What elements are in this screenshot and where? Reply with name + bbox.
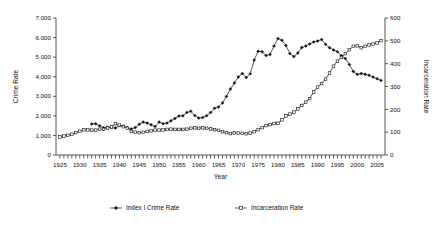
data-point-crime-rate [316, 40, 319, 43]
data-point-incarceration-rate [197, 127, 200, 130]
data-point-incarceration-rate [78, 130, 81, 133]
data-point-crime-rate [368, 74, 371, 77]
x-axis-tick-label: 1965 [212, 161, 226, 168]
data-point-crime-rate [169, 119, 172, 122]
y-axis-left-tick-label: 7,000 [36, 14, 52, 21]
data-point-incarceration-rate [344, 52, 347, 55]
y-axis-left-title: Crime Rate [12, 69, 19, 103]
series-line-2 [60, 41, 381, 137]
y-axis-right-tick-label: 400 [390, 60, 401, 67]
x-axis-tick-label: 1955 [172, 161, 186, 168]
data-point-incarceration-rate [178, 128, 181, 131]
data-point-incarceration-rate [142, 131, 145, 134]
x-axis-tick-label: 1990 [311, 161, 325, 168]
data-point-incarceration-rate [110, 126, 113, 129]
data-point-incarceration-rate [59, 136, 62, 139]
data-point-incarceration-rate [86, 129, 89, 132]
data-point-incarceration-rate [308, 97, 311, 100]
x-axis-tick-label: 1945 [132, 161, 146, 168]
data-point-incarceration-rate [146, 130, 149, 133]
data-point-incarceration-rate [380, 39, 383, 42]
data-point-incarceration-rate [285, 115, 288, 118]
data-point-crime-rate [98, 124, 101, 127]
y-axis-right-tick-label: 600 [390, 14, 401, 21]
data-point-incarceration-rate [324, 78, 327, 81]
data-point-incarceration-rate [328, 72, 331, 75]
data-point-incarceration-rate [209, 128, 212, 131]
x-axis-tick-label: 2000 [350, 161, 364, 168]
data-point-crime-rate [273, 44, 276, 47]
data-point-crime-rate [376, 77, 379, 80]
y-axis-right-tick-label: 300 [390, 83, 401, 90]
x-axis-tick-label: 1950 [152, 161, 166, 168]
data-point-crime-rate [201, 116, 204, 119]
data-point-crime-rate [312, 40, 315, 43]
data-point-crime-rate [94, 122, 97, 125]
y-axis-right-tick-label: 100 [390, 128, 401, 135]
data-point-incarceration-rate [182, 128, 185, 131]
data-point-incarceration-rate [114, 122, 117, 125]
data-point-crime-rate [177, 115, 180, 118]
legend-label-1: Index I Crime Rate [126, 204, 180, 211]
x-axis-tick-label: 1940 [113, 161, 127, 168]
data-point-incarceration-rate [332, 65, 335, 68]
x-axis-tick-label: 1925 [53, 161, 67, 168]
data-point-incarceration-rate [98, 128, 101, 131]
data-point-incarceration-rate [150, 130, 153, 133]
data-point-incarceration-rate [273, 122, 276, 125]
data-point-incarceration-rate [229, 132, 232, 135]
data-point-incarceration-rate [94, 129, 97, 132]
data-point-crime-rate [269, 53, 272, 56]
data-point-incarceration-rate [237, 132, 240, 135]
data-point-incarceration-rate [122, 125, 125, 128]
data-point-crime-rate [162, 122, 165, 125]
data-point-incarceration-rate [368, 44, 371, 47]
data-point-incarceration-rate [158, 129, 161, 132]
data-point-incarceration-rate [217, 129, 220, 132]
data-point-incarceration-rate [106, 127, 109, 130]
data-point-incarceration-rate [265, 124, 268, 127]
data-point-crime-rate [257, 50, 260, 53]
data-point-incarceration-rate [174, 128, 177, 131]
data-point-incarceration-rate [126, 127, 129, 130]
data-point-crime-rate [276, 37, 279, 40]
data-point-incarceration-rate [297, 108, 300, 111]
data-point-incarceration-rate [154, 129, 157, 132]
data-point-incarceration-rate [241, 132, 244, 135]
x-axis-tick-label: 1930 [73, 161, 87, 168]
data-point-incarceration-rate [245, 132, 248, 135]
data-point-incarceration-rate [205, 127, 208, 130]
data-point-incarceration-rate [75, 131, 78, 134]
data-point-crime-rate [308, 43, 311, 46]
data-point-incarceration-rate [364, 45, 367, 48]
x-axis-tick-label: 1970 [231, 161, 245, 168]
data-point-incarceration-rate [138, 131, 141, 134]
data-point-incarceration-rate [281, 119, 284, 122]
data-point-incarceration-rate [312, 91, 315, 94]
data-point-incarceration-rate [257, 128, 260, 131]
data-point-incarceration-rate [352, 45, 355, 48]
data-point-incarceration-rate [201, 127, 204, 130]
data-point-incarceration-rate [71, 133, 74, 136]
y-axis-left-tick-label: 4,000 [36, 73, 52, 80]
data-point-incarceration-rate [340, 56, 343, 59]
y-axis-left-tick-label: 5,000 [36, 53, 52, 60]
data-point-incarceration-rate [356, 45, 359, 48]
data-point-incarceration-rate [102, 128, 105, 131]
data-point-crime-rate [372, 76, 375, 79]
data-point-incarceration-rate [67, 134, 70, 137]
data-point-crime-rate [90, 123, 93, 126]
data-point-incarceration-rate [225, 131, 228, 134]
data-point-incarceration-rate [170, 128, 173, 131]
x-axis-title: Year [214, 173, 228, 180]
data-point-incarceration-rate [348, 48, 351, 51]
data-point-incarceration-rate [316, 86, 319, 89]
y-axis-right-title: Incarceration Rate [423, 60, 430, 114]
data-point-incarceration-rate [134, 131, 137, 134]
data-point-incarceration-rate [63, 135, 66, 138]
data-point-incarceration-rate [189, 127, 192, 130]
legend-marker-open-square-icon [240, 206, 243, 209]
data-point-crime-rate [380, 79, 383, 82]
y-axis-left-tick-label: 3,000 [36, 92, 52, 99]
data-point-incarceration-rate [213, 128, 216, 131]
